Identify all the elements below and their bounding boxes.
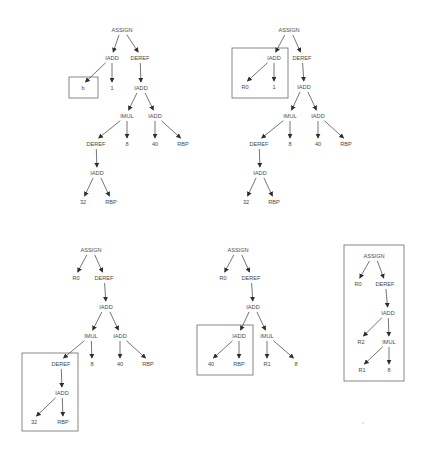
tree-node: IMUL	[283, 113, 296, 119]
tree-node: DEREF	[87, 141, 107, 147]
tree-3: ASSIGNR0DEREFIADDIMULIADDDEREF840RBPIADD…	[22, 247, 154, 431]
tree-node: DEREF	[242, 275, 262, 281]
tree-node: IADD	[267, 55, 280, 61]
edge-arrow	[360, 261, 370, 278]
tree-node: ASSIGN	[227, 247, 248, 253]
tree-node: IADD	[55, 390, 68, 396]
tree-node: IADD	[134, 85, 147, 91]
edge-arrow	[99, 121, 121, 138]
edge-arrow	[241, 312, 250, 330]
tree-node: IADD	[311, 113, 324, 119]
tree-2: ASSIGNIADDDEREFR01IADDIMULIADDDEREF840RB…	[232, 27, 352, 205]
instruction-selection-tree-diagram: ASSIGNIADDDEREFb1IADDIMULIADDDEREF840RBP…	[0, 0, 426, 453]
tree-node: 40	[315, 141, 321, 147]
tree-node: R2	[357, 339, 364, 345]
edge-arrow	[93, 312, 102, 330]
tree-node: 40	[117, 361, 123, 367]
edge-arrow	[262, 121, 284, 138]
edge-arrow	[105, 283, 106, 301]
edge-arrow	[292, 92, 301, 110]
tree-node: IADD	[113, 333, 126, 339]
edge-arrow	[248, 63, 268, 81]
tree-node: 8	[125, 141, 128, 147]
tree-node: R0	[219, 275, 226, 281]
tree-node: 40	[208, 361, 214, 367]
tree-node: IADD	[148, 113, 161, 119]
edge-arrow	[95, 255, 103, 272]
tree-node: IADD	[232, 333, 245, 339]
edge-arrow	[386, 289, 388, 307]
tree-node: DEREF	[293, 55, 313, 61]
trees-layer: ASSIGNIADDDEREFb1IADDIMULIADDDEREF840RBP…	[22, 27, 404, 431]
edge-arrow	[264, 178, 273, 196]
tree-node: RBP	[268, 199, 280, 205]
tree-4: ASSIGNR0DEREFIADDIADDIMUL40RBPR18	[197, 247, 298, 375]
edge-arrow	[293, 35, 301, 52]
tree-node: 32	[31, 419, 37, 425]
edge-arrow	[161, 121, 180, 138]
tree-node: DEREF	[95, 275, 115, 281]
tree-node: IADD	[99, 304, 112, 310]
edge-arrow	[127, 35, 138, 52]
tree-node: IMUL	[382, 339, 395, 345]
edge-arrow	[145, 93, 153, 110]
edge-arrow	[126, 341, 145, 358]
tree-node: ASSIGN	[363, 253, 384, 259]
edge-arrow	[64, 341, 85, 358]
tree-node: ASSIGN	[80, 247, 101, 253]
edge-arrow	[259, 149, 260, 167]
stray-dot	[362, 422, 365, 425]
edge-arrow	[78, 255, 87, 272]
tree-node: IADD	[253, 170, 266, 176]
tree-node: b	[81, 85, 84, 91]
edge-arrow	[140, 63, 141, 82]
edge-arrow	[113, 35, 119, 52]
edge-arrow	[242, 255, 250, 272]
edge-arrow	[364, 318, 382, 336]
tree-5: ASSIGNR0DEREFIADDR2IMULR18	[344, 245, 404, 381]
edge-arrow	[214, 341, 233, 358]
tree-node: RBP	[57, 419, 69, 425]
tree-node: R0	[354, 281, 361, 287]
tree-node: IMUL	[120, 113, 133, 119]
tree-node: R0	[241, 84, 248, 90]
tree-node: IADD	[90, 170, 103, 176]
tree-node: IADD	[381, 310, 394, 316]
tree-node: RBP	[142, 361, 154, 367]
highlight-box	[344, 245, 404, 381]
tree-node: RBP	[233, 361, 245, 367]
edge-arrow	[377, 261, 383, 278]
edge-arrow	[365, 347, 383, 364]
edge-arrow	[37, 398, 56, 416]
tree-node: IMUL	[260, 333, 273, 339]
tree-node: ASSIGN	[278, 27, 299, 33]
edge-arrow	[308, 92, 317, 110]
tree-node: 1	[110, 85, 113, 91]
tree-node: 8	[387, 367, 390, 373]
edge-arrow	[225, 255, 234, 272]
edge-arrow	[129, 93, 137, 110]
tree-node: 32	[243, 199, 249, 205]
edge-arrow	[252, 283, 253, 301]
edge-arrow	[324, 121, 343, 138]
edge-arrow	[101, 178, 110, 196]
tree-node: ASSIGN	[111, 27, 132, 33]
tree-node: 40	[152, 141, 158, 147]
edge-arrow	[257, 312, 266, 330]
tree-node: IADD	[105, 55, 118, 61]
edge-arrow	[62, 398, 63, 416]
edge-arrow	[303, 63, 304, 81]
tree-node: RBP	[105, 199, 117, 205]
edge-arrow	[274, 341, 294, 358]
edge-arrow	[85, 178, 94, 196]
edge-arrow	[388, 318, 389, 336]
tree-node: R1	[263, 361, 270, 367]
tree-node: IADD	[246, 304, 259, 310]
tree-node: DEREF	[52, 361, 72, 367]
tree-node: RBP	[177, 141, 189, 147]
tree-node: 1	[272, 84, 275, 90]
edge-arrow	[96, 149, 97, 167]
edge-arrow	[276, 35, 285, 52]
tree-node: R1	[358, 367, 365, 373]
tree-node: IADD	[297, 84, 310, 90]
